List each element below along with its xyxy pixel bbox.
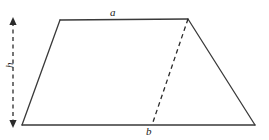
geometry-figure: — — — a b h: [0, 0, 269, 140]
height-arrow-head-top: [9, 17, 16, 25]
trapezoid-diagram-svg: [0, 0, 269, 140]
top-side-label: a: [110, 7, 116, 18]
bottom-side-label: b: [146, 126, 152, 137]
trapezoid-left-side: [22, 20, 60, 125]
dashed-slant-line: [152, 19, 188, 125]
height-label: h: [4, 63, 15, 69]
trapezoid-top-side: [60, 19, 188, 20]
height-arrow-head-bottom: [9, 120, 16, 128]
trapezoid-right-side: [188, 19, 255, 125]
